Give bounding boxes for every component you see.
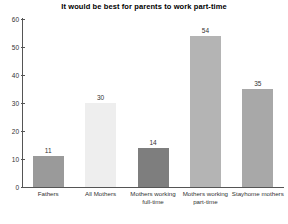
y-tick-label: 0 [15,184,19,191]
bar[interactable]: 30 [85,103,116,187]
category-label: Fathers [22,190,74,198]
y-tick-label: 50 [12,44,19,51]
y-tick-mark [21,75,25,76]
y-tick-mark [21,187,25,188]
chart-container: It would be best for parents to work par… [0,0,288,224]
bar[interactable]: 14 [138,148,169,187]
bar-value-label: 14 [149,139,156,146]
x-axis-line [22,187,284,188]
category-label: Mothers working part-time [179,190,231,206]
y-tick-label: 10 [12,156,19,163]
y-tick-label: 60 [12,16,19,23]
bar-value-label: 35 [254,80,261,87]
y-tick-label: 30 [12,100,19,107]
bar[interactable]: 35 [242,89,273,187]
chart-title: It would be best for parents to work par… [0,2,288,12]
y-tick-label: 20 [12,128,19,135]
y-tick-mark [21,131,25,132]
y-tick-mark [21,159,25,160]
y-tick-label: 40 [12,72,19,79]
y-tick-mark [21,103,25,104]
plot-area: 0102030405060 1130145435 FathersAll Moth… [22,18,284,188]
bar[interactable]: 11 [33,156,64,187]
category-label: All Mothers [74,190,126,198]
bar-value-label: 30 [97,94,104,101]
y-tick-mark [21,47,25,48]
y-tick-mark [21,19,25,20]
bar-value-label: 54 [202,27,209,34]
bar[interactable]: 54 [190,36,221,187]
bar-value-label: 11 [45,147,52,154]
category-label: Mothers working full-time [127,190,179,206]
category-label: Stayhome mothers [232,190,284,198]
